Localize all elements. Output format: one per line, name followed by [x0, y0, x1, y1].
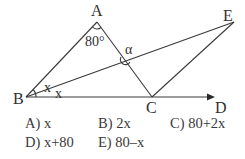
- segment-ac: [97, 22, 152, 97]
- angle-label-x-lower: x: [55, 86, 62, 102]
- angle-label-alpha: α: [125, 42, 132, 58]
- arrow-head-icon: [207, 94, 215, 101]
- point-label-d: D: [215, 100, 227, 116]
- option-e[interactable]: E) 80–x: [98, 134, 144, 151]
- angle-arc-b: [33, 90, 36, 98]
- option-d[interactable]: D) x+80: [25, 134, 74, 151]
- point-label-c: C: [146, 100, 157, 116]
- point-label-a: A: [91, 3, 103, 19]
- angle-label-80: 80°: [85, 34, 105, 50]
- angle-label-x-upper: x: [44, 80, 51, 96]
- option-b[interactable]: B) 2x: [98, 115, 131, 132]
- angle-arc-a: [93, 27, 102, 29]
- point-label-b: B: [13, 91, 24, 107]
- segment-ce: [152, 22, 234, 97]
- option-a[interactable]: A) x: [25, 115, 51, 132]
- option-c[interactable]: C) 80+2x: [170, 115, 225, 132]
- point-label-e: E: [223, 8, 233, 24]
